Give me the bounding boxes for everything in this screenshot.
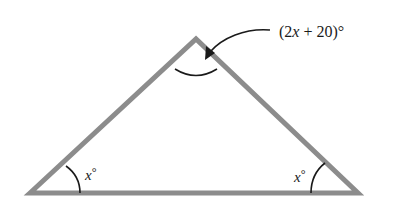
apex-angle-arc <box>175 69 217 76</box>
apex-angle-label: (2x + 20)° <box>279 23 344 41</box>
pointer-arrow <box>210 30 270 52</box>
triangle-diagram: (2x + 20)° x° x° <box>0 0 401 198</box>
left-angle-arc <box>66 166 80 193</box>
left-angle-label: x° <box>84 165 97 183</box>
right-angle-label: x° <box>293 167 306 185</box>
right-angle-arc <box>311 163 325 193</box>
triangle <box>30 39 358 193</box>
